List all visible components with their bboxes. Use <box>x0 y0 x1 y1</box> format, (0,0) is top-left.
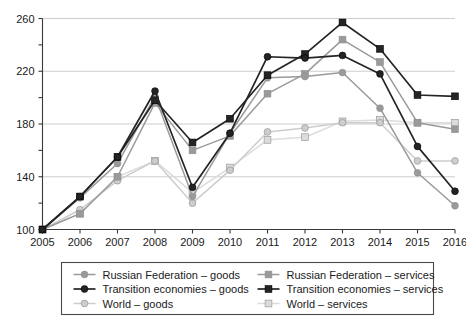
legend-item-te_goods[interactable]: Transition economies – goods <box>74 283 250 295</box>
data-point-marker <box>302 125 309 132</box>
data-point-marker <box>377 59 384 66</box>
data-point-marker <box>452 202 459 209</box>
legend-item-te_services[interactable]: Transition economies – services <box>258 283 444 295</box>
data-point-marker <box>452 119 459 126</box>
legend-label: Russian Federation – goods <box>103 269 241 281</box>
x-tick-label: 2016 <box>443 236 466 248</box>
data-point-marker <box>452 93 459 100</box>
data-point-marker <box>302 55 309 62</box>
data-point-marker <box>339 52 346 59</box>
data-point-marker <box>114 160 121 167</box>
y-tick-label: 180 <box>16 118 34 130</box>
x-tick-label: 2006 <box>68 236 92 248</box>
series-te_services <box>39 19 458 233</box>
legend-label: Transition economies – services <box>287 283 444 295</box>
y-tick-label: 100 <box>16 224 34 236</box>
legend-label: Transition economies – goods <box>103 283 250 295</box>
data-point-marker <box>265 271 272 278</box>
legend-label: World – services <box>287 298 369 310</box>
data-point-marker <box>414 158 421 165</box>
data-point-marker <box>265 300 272 307</box>
data-series <box>39 19 458 233</box>
data-point-marker <box>227 115 234 122</box>
data-point-marker <box>77 193 84 200</box>
data-point-marker <box>414 92 421 99</box>
data-point-marker <box>189 193 196 200</box>
data-point-marker <box>189 139 196 146</box>
x-tick-label: 2010 <box>218 236 242 248</box>
data-point-marker <box>81 271 88 278</box>
x-tick-label: 2012 <box>293 236 317 248</box>
data-point-marker <box>81 300 88 307</box>
line-chart: 100140180220260 200520062007200820092010… <box>0 0 466 324</box>
data-point-marker <box>77 210 84 217</box>
data-point-marker <box>452 158 459 165</box>
data-point-marker <box>452 126 459 133</box>
legend-item-world_goods[interactable]: World – goods <box>74 298 174 310</box>
x-tick-label: 2009 <box>180 236 204 248</box>
y-tick-label: 220 <box>16 65 34 77</box>
x-tick-label: 2007 <box>105 236 129 248</box>
chart-legend: Russian Federation – goodsRussian Federa… <box>62 263 444 315</box>
x-tick-label: 2015 <box>405 236 429 248</box>
data-point-marker <box>152 158 159 165</box>
data-point-marker <box>339 19 346 26</box>
data-point-marker <box>452 188 459 195</box>
x-axis-tick-labels: 2005200620072008200920102011201220132014… <box>30 236 466 248</box>
series-line <box>43 22 456 229</box>
data-point-marker <box>339 36 346 43</box>
legend-label: World – goods <box>103 298 174 310</box>
data-point-marker <box>414 143 421 150</box>
data-point-marker <box>414 169 421 176</box>
data-point-marker <box>377 105 384 112</box>
y-axis-tick-labels: 100140180220260 <box>16 13 34 236</box>
data-point-marker <box>377 70 384 77</box>
data-point-marker <box>114 154 121 161</box>
y-tick-label: 140 <box>16 171 34 183</box>
y-tick-label: 260 <box>16 13 34 25</box>
data-point-marker <box>264 53 271 60</box>
data-point-marker <box>302 134 309 141</box>
data-point-marker <box>227 167 234 174</box>
data-point-marker <box>264 90 271 97</box>
data-point-marker <box>264 72 271 79</box>
data-point-marker <box>189 184 196 191</box>
data-point-marker <box>189 147 196 154</box>
data-point-marker <box>339 119 346 126</box>
axes <box>39 19 456 234</box>
x-tick-label: 2013 <box>330 236 354 248</box>
data-point-marker <box>81 286 88 293</box>
legend-label: Russian Federation – services <box>287 269 435 281</box>
x-tick-label: 2005 <box>30 236 54 248</box>
data-point-marker <box>264 129 271 136</box>
legend-item-rf_services[interactable]: Russian Federation – services <box>258 269 435 281</box>
series-te_goods <box>39 52 458 233</box>
data-point-marker <box>227 130 234 137</box>
data-point-marker <box>264 136 271 143</box>
data-point-marker <box>302 73 309 80</box>
data-point-marker <box>414 119 421 126</box>
data-point-marker <box>377 119 384 126</box>
data-point-marker <box>152 88 159 95</box>
legend-item-world_services[interactable]: World – services <box>258 298 369 310</box>
data-point-marker <box>114 173 121 180</box>
data-point-marker <box>39 226 46 233</box>
data-point-marker <box>377 45 384 52</box>
x-tick-label: 2011 <box>256 236 280 248</box>
chart-canvas: 100140180220260 200520062007200820092010… <box>0 0 466 324</box>
x-tick-label: 2014 <box>368 236 392 248</box>
data-point-marker <box>189 200 196 207</box>
data-point-marker <box>265 286 272 293</box>
series-line <box>43 55 456 229</box>
legend-item-rf_goods[interactable]: Russian Federation – goods <box>74 269 241 281</box>
x-tick-label: 2008 <box>143 236 167 248</box>
series-line <box>43 40 456 230</box>
data-point-marker <box>339 69 346 76</box>
